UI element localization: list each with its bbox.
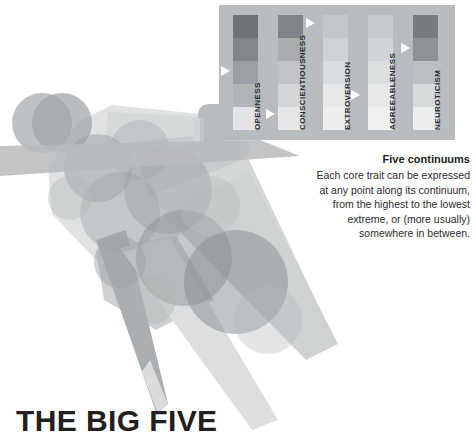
caption-heading: Five continuums [284, 152, 470, 167]
segment [233, 61, 258, 84]
figure-circle-10 [234, 286, 302, 354]
periscope-stem-2 [200, 118, 204, 144]
segment [233, 15, 258, 38]
caption-block: Five continuums Each core trait can be e… [284, 152, 470, 241]
segment [233, 38, 258, 61]
figure-circle-9 [180, 176, 240, 236]
figure-circle-8 [48, 176, 92, 220]
figure-circle-11 [128, 276, 176, 324]
caption-body: Each core trait can be expressed at any … [284, 168, 470, 241]
caption-line-1: Each core trait can be expressed [284, 168, 470, 183]
continuum-marker-conscientiousness[interactable] [306, 18, 315, 28]
segment [413, 15, 438, 38]
continuum-label-agreeableness: AGREEABLENESS [388, 53, 397, 130]
continuum-marker-openness[interactable] [221, 66, 230, 76]
caption-line-4: extreme, or (more usually) [284, 212, 470, 227]
continuum-label-neuroticism: NEUROTICISM [433, 70, 442, 130]
segment [323, 38, 348, 61]
page-title: THE BIG FIVE [16, 404, 218, 438]
continuum-panel: OPENNESS CONSCIENTIOUSNESS EXTROV [219, 5, 455, 140]
segment [368, 15, 393, 38]
periscope-stem [193, 118, 200, 144]
continuum-label-openness: OPENNESS [253, 82, 262, 130]
caption-line-2: at any point along its continuum, [284, 183, 470, 198]
continuum-marker-extroversion[interactable] [351, 90, 360, 100]
continuum-columns: OPENNESS CONSCIENTIOUSNESS EXTROV [219, 5, 455, 140]
segment [413, 38, 438, 61]
infographic-root: OPENNESS CONSCIENTIOUSNESS EXTROV [0, 0, 474, 447]
figure-circle-7 [94, 236, 146, 288]
continuum-label-conscientiousness: CONSCIENTIOUSNESS [298, 35, 307, 130]
caption-line-3: from the highest to the lowest [284, 197, 470, 212]
continuum-marker-openness-low[interactable] [266, 109, 275, 119]
segment [323, 15, 348, 38]
continuum-marker-neuroticism[interactable] [401, 43, 410, 53]
caption-line-5: somewhere in between. [284, 226, 470, 241]
